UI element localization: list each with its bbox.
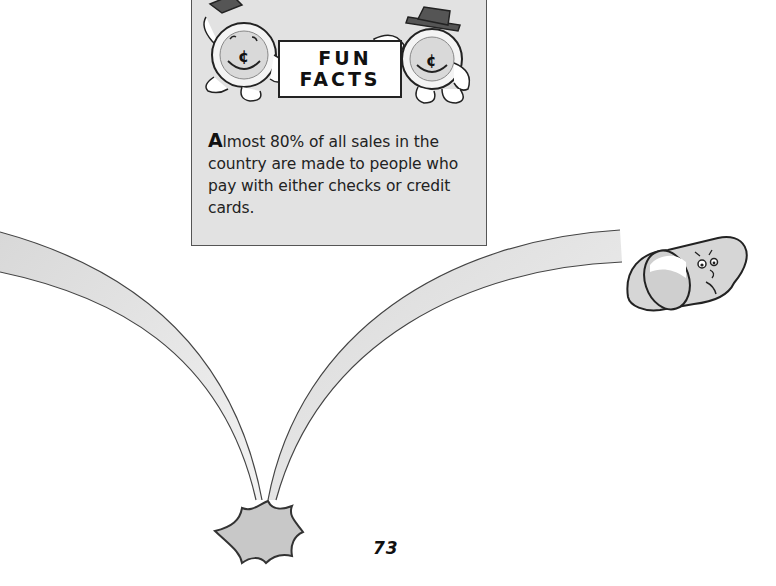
- svg-text:¢: ¢: [426, 52, 436, 70]
- svg-text:¢: ¢: [238, 47, 249, 66]
- heading-line-1: FUN: [318, 48, 371, 69]
- coin-mascot-left-icon: ¢: [204, 0, 286, 101]
- rolled-check-character: [627, 237, 746, 315]
- book-page: ¢ ¢ FUN FACTS: [0, 0, 776, 586]
- fun-fact-text: Almost 80% of all sales in the country a…: [208, 129, 478, 219]
- fact-body: lmost 80% of all sales in the country ar…: [208, 133, 458, 217]
- impact-star: [215, 501, 303, 563]
- left-arc-ribbon: [0, 232, 262, 500]
- fun-facts-box: ¢ ¢ FUN FACTS: [191, 0, 487, 246]
- page-number: 73: [373, 538, 399, 558]
- heading-line-2: FACTS: [299, 69, 380, 90]
- fun-facts-banner: FUN FACTS: [278, 40, 402, 98]
- fact-dropcap: A: [208, 129, 223, 151]
- right-arc-ribbon: [268, 230, 622, 500]
